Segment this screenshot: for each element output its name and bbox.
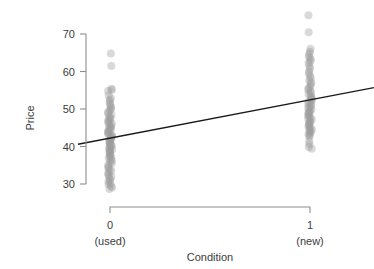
data-point	[305, 28, 313, 36]
x-tick-label: 0	[107, 219, 113, 231]
y-axis: 3040506070	[63, 28, 86, 190]
x-axis-label: Condition	[187, 251, 233, 263]
regression-line	[78, 88, 374, 145]
data-point	[107, 50, 115, 58]
fit-line-path	[78, 88, 374, 145]
data-point	[107, 62, 115, 70]
x-tick-label: 1	[307, 219, 313, 231]
chart-canvas: 3040506070 0(used)1(new) Price Condition	[0, 0, 374, 269]
y-axis-label: Price	[24, 105, 36, 130]
x-axis-tick-labels: 0(used)1(new)	[94, 219, 323, 247]
y-axis-ticks: 3040506070	[63, 28, 86, 190]
y-tick-label: 50	[63, 103, 75, 115]
y-tick-label: 30	[63, 178, 75, 190]
x-tick-sublabel: (new)	[296, 235, 324, 247]
x-axis-bracket	[110, 207, 310, 213]
x-tick-sublabel: (used)	[94, 235, 125, 247]
x-axis: 0(used)1(new)	[94, 207, 323, 247]
data-point	[304, 11, 312, 19]
y-tick-label: 60	[63, 66, 75, 78]
y-tick-label: 70	[63, 28, 75, 40]
data-points-layer	[104, 11, 316, 193]
scatter-plot-figure: 3040506070 0(used)1(new) Price Condition	[0, 0, 374, 269]
data-point	[105, 185, 113, 193]
data-point	[308, 145, 316, 153]
y-tick-label: 40	[63, 141, 75, 153]
